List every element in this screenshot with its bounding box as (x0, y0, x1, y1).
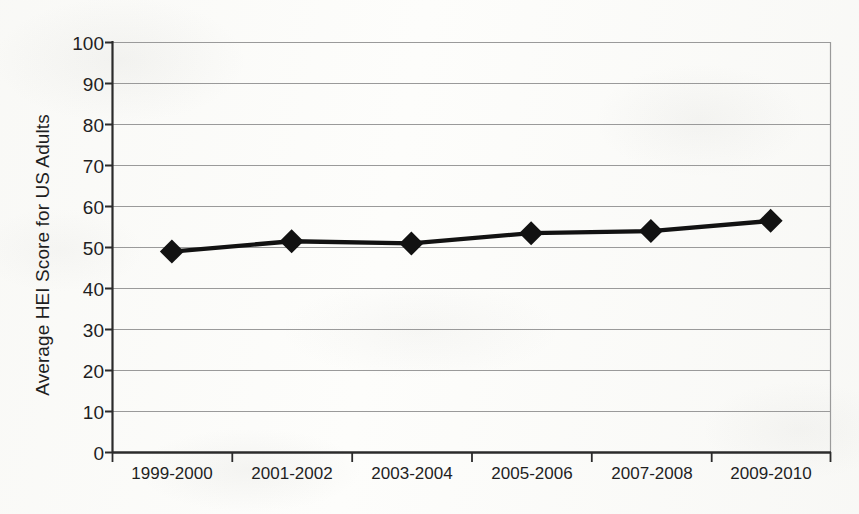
y-tick-label: 40 (58, 280, 104, 299)
y-axis-title: Average HEI Score for US Adults (32, 45, 54, 465)
x-tick-label: 2009-2010 (711, 464, 831, 484)
x-tick-label: 1999-2000 (112, 464, 232, 484)
data-point-marker (280, 229, 304, 253)
y-tick-label: 90 (58, 75, 104, 94)
y-axis-ticks (105, 43, 112, 453)
y-tick-label: 0 (58, 444, 104, 463)
x-tick-label: 2007-2008 (592, 464, 712, 484)
data-point-marker (160, 240, 184, 264)
y-tick-label: 70 (58, 157, 104, 176)
y-axis-tick-labels: 100 90 80 70 60 50 40 30 20 10 0 (52, 0, 104, 514)
data-point-marker (759, 209, 783, 233)
y-tick-label: 80 (58, 116, 104, 135)
y-tick-label: 100 (58, 34, 104, 53)
plot-canvas (0, 0, 859, 514)
line-chart: Average HEI Score for US Adults 100 90 8… (0, 0, 859, 514)
x-tick-label: 2003-2004 (352, 464, 472, 484)
x-tick-label: 2001-2002 (232, 464, 352, 484)
x-tick-label: 2005-2006 (472, 464, 592, 484)
y-tick-label: 20 (58, 362, 104, 381)
data-point-marker (639, 219, 663, 243)
y-tick-label: 50 (58, 239, 104, 258)
chart-page: Average HEI Score for US Adults 100 90 8… (0, 0, 859, 514)
y-tick-label: 30 (58, 321, 104, 340)
y-tick-label: 10 (58, 403, 104, 422)
data-point-marker (399, 231, 423, 255)
y-tick-label: 60 (58, 198, 104, 217)
data-point-marker (519, 221, 543, 245)
